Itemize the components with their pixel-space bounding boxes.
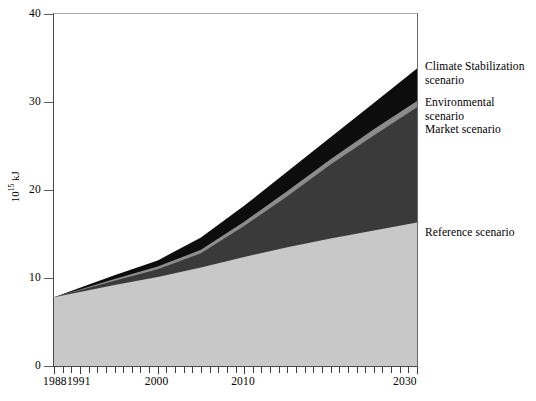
x-axis-tick-mark — [115, 367, 116, 373]
x-axis-tick-mark — [123, 367, 124, 373]
x-axis-labels: 19881991200020102030 — [0, 375, 536, 391]
x-axis-tick-label: 2030 — [393, 375, 417, 387]
x-axis-tick-label: 1991 — [67, 375, 91, 387]
x-axis-tick-mark — [261, 367, 262, 373]
x-axis-tick-mark — [175, 367, 176, 373]
x-axis-tick-mark — [227, 367, 228, 373]
series-annotation: Environmental scenario Market scenario — [425, 96, 536, 137]
x-axis-tick-mark — [166, 367, 167, 373]
x-axis-tick-mark — [339, 367, 340, 373]
x-axis-tick-mark — [80, 367, 81, 374]
x-axis-tick-mark — [357, 367, 358, 373]
x-axis-tick-mark — [63, 367, 64, 373]
x-axis-tick-mark — [279, 367, 280, 373]
stacked-area-series — [54, 14, 417, 366]
y-axis-tick-label: 20 — [29, 184, 41, 196]
x-axis-tick-mark — [97, 367, 98, 373]
x-axis-tick-mark — [331, 367, 332, 373]
x-axis-tick-label: 2010 — [231, 375, 255, 387]
x-axis-tick-label: 2000 — [145, 375, 169, 387]
y-axis-tick-mark — [44, 278, 53, 279]
y-axis-tick-label: 40 — [29, 8, 41, 20]
x-axis-tick-mark — [253, 367, 254, 373]
x-axis-tick-mark — [54, 367, 55, 374]
x-axis-tick-mark — [348, 367, 349, 373]
x-axis-tick-mark — [71, 367, 72, 373]
y-axis-tick-mark — [44, 14, 53, 15]
x-axis-tick-mark — [408, 367, 409, 373]
y-axis-labels: 010203040 — [0, 0, 41, 401]
x-axis-tick-mark — [382, 367, 383, 373]
x-axis-tick-mark — [192, 367, 193, 373]
x-axis-tick-mark — [400, 367, 401, 373]
x-axis-tick-mark — [149, 367, 150, 373]
x-axis-tick-mark — [305, 367, 306, 373]
x-axis-tick-mark — [365, 367, 366, 373]
x-axis-tick-mark — [218, 367, 219, 373]
x-axis-tick-mark — [322, 367, 323, 373]
x-axis-tick-mark — [89, 367, 90, 373]
x-axis-tick-mark — [210, 367, 211, 373]
x-axis-tick-mark — [244, 367, 245, 374]
x-axis-tick-mark — [296, 367, 297, 373]
y-axis-tick-label: 30 — [29, 96, 41, 108]
x-axis-tick-mark — [132, 367, 133, 373]
x-axis-tick-mark — [158, 367, 159, 374]
series-annotation: Reference scenario — [425, 226, 515, 240]
x-axis-tick-label: 1988 — [43, 375, 67, 387]
x-axis-ticks — [53, 367, 419, 374]
x-axis-tick-mark — [391, 367, 392, 373]
x-axis-tick-mark — [140, 367, 141, 373]
y-axis-tick-label: 10 — [29, 272, 41, 284]
x-axis-tick-mark — [184, 367, 185, 373]
x-axis-tick-mark — [270, 367, 271, 373]
x-axis-tick-mark — [106, 367, 107, 373]
y-axis-tick-mark — [44, 366, 53, 367]
x-axis-tick-mark — [201, 367, 202, 373]
x-axis-tick-mark — [417, 367, 418, 374]
y-axis-tick-mark — [44, 190, 53, 191]
y-axis-tick-mark — [44, 102, 53, 103]
x-axis-tick-mark — [374, 367, 375, 373]
x-axis-tick-mark — [287, 367, 288, 373]
y-axis-tick-label: 0 — [35, 360, 41, 372]
x-axis-tick-mark — [236, 367, 237, 373]
plot-area — [53, 13, 418, 367]
chart-figure: 1015 kJ 010203040 19881991200020102030 C… — [0, 0, 536, 401]
x-axis-tick-mark — [313, 367, 314, 373]
series-annotation: Climate Stabilization scenario — [425, 60, 525, 87]
